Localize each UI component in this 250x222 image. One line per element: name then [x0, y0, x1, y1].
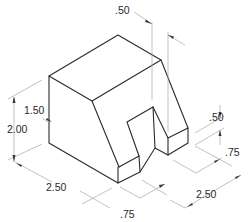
dim-label-top-slot-width: .50 — [115, 4, 130, 16]
dim-label-left-total-height: 2.00 — [7, 123, 28, 135]
slot-floor — [140, 148, 168, 172]
dim-label-left-upper-height: 1.50 — [24, 104, 45, 116]
slot-right-wall — [153, 107, 168, 138]
slot-left-wall — [127, 107, 153, 156]
dimension-labels: .50 1.50 2.00 .50 .75 2.50 .75 2.50 — [7, 4, 240, 220]
slot-back-edge — [153, 107, 155, 148]
isometric-drawing: .50 1.50 2.00 .50 .75 2.50 .75 2.50 — [0, 0, 250, 222]
dim-label-bottom-right-length: 2.50 — [196, 188, 217, 200]
dim-label-bottom-left-length: 2.50 — [46, 181, 67, 193]
dim-label-bottom-slot-offset: .75 — [120, 208, 135, 220]
slanted-face-right-edge — [161, 60, 188, 128]
left-foot-block — [118, 156, 140, 183]
slanted-face-left-edge — [92, 101, 119, 167]
top-face — [49, 35, 161, 101]
dim-label-right-block-height: .50 — [209, 111, 224, 123]
right-foot-block — [168, 128, 188, 155]
dim-label-right-block-depth: .75 — [225, 146, 240, 158]
part-outline — [49, 35, 188, 183]
